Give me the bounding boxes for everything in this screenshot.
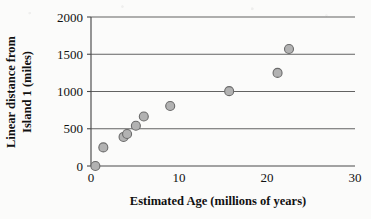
data-points-group — [91, 45, 294, 171]
y-tick-label-0: 0 — [77, 159, 84, 174]
data-point — [285, 45, 294, 54]
gridlines-group — [91, 17, 355, 129]
y-axis-title: Linear distance from Island 1 (miles) — [4, 35, 34, 148]
data-point — [131, 121, 140, 130]
data-point — [99, 143, 108, 152]
data-point — [225, 87, 234, 96]
y-tick-labels-group: 0500100015002000 — [57, 10, 83, 174]
data-point — [91, 162, 100, 171]
x-tick-label-10: 10 — [173, 170, 186, 185]
data-point — [123, 129, 132, 138]
y-tick-label-2000: 2000 — [57, 10, 83, 25]
x-tick-label-20: 20 — [261, 170, 274, 185]
y-tick-marks-group — [87, 17, 91, 166]
y-tick-label-1000: 1000 — [57, 84, 83, 99]
scatter-plot-figure: 0500100015002000 0102030 Linear distance… — [0, 0, 371, 219]
data-point — [166, 102, 175, 111]
y-tick-label-500: 500 — [64, 121, 84, 136]
chart-canvas: 0500100015002000 0102030 Linear distance… — [0, 0, 371, 219]
data-point — [139, 112, 148, 121]
data-point — [273, 68, 282, 77]
y-axis-title-line2: Island 1 (miles) — [20, 51, 34, 133]
x-axis-title: Estimated Age (millions of years) — [130, 194, 306, 208]
x-tick-label-30: 30 — [349, 170, 362, 185]
x-tick-label-0: 0 — [88, 170, 95, 185]
y-axis-title-line1: Linear distance from — [4, 35, 18, 148]
y-tick-label-1500: 1500 — [57, 47, 83, 62]
x-tick-labels-group: 0102030 — [88, 170, 362, 185]
